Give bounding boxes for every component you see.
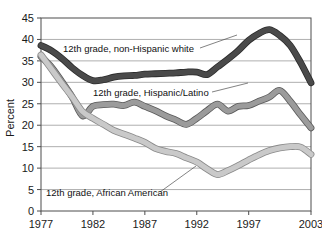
series-line-0	[41, 30, 311, 83]
x-axis-ticks: 197719821987199219972003	[29, 211, 322, 230]
x-tick-label-1987: 1987	[133, 218, 157, 230]
line-chart: 197719821987199219972003 051015202530354…	[0, 0, 322, 239]
leader-line-0	[200, 35, 237, 48]
series-annotation-non-hispanic-white: 12th grade, non-Hispanic white	[63, 43, 194, 54]
leader-line-1	[212, 83, 248, 92]
y-tick-label-35: 35	[22, 55, 34, 67]
y-tick-label-20: 20	[22, 119, 34, 131]
y-tick-label-15: 15	[22, 141, 34, 153]
series-annotation-african-american: 12th grade, African American	[46, 187, 168, 198]
y-tick-label-10: 10	[22, 162, 34, 174]
x-tick-label-1992: 1992	[185, 218, 209, 230]
x-tick-label-2003: 2003	[299, 218, 322, 230]
x-tick-label-1997: 1997	[236, 218, 260, 230]
x-tick-label-1982: 1982	[81, 218, 105, 230]
x-tick-label-1977: 1977	[29, 218, 53, 230]
chart-container: 197719821987199219972003 051015202530354…	[0, 0, 322, 239]
y-tick-label-25: 25	[22, 98, 34, 110]
y-tick-label-0: 0	[28, 205, 34, 217]
y-tick-label-40: 40	[22, 33, 34, 45]
y-tick-label-45: 45	[22, 12, 34, 24]
y-axis-title: Percent	[4, 99, 16, 137]
series-annotation-hispanic-latino: 12th grade, Hispanic/Latino	[93, 87, 209, 98]
y-axis-ticks: 051015202530354045	[22, 12, 41, 217]
y-tick-label-5: 5	[28, 184, 34, 196]
y-tick-label-30: 30	[22, 76, 34, 88]
